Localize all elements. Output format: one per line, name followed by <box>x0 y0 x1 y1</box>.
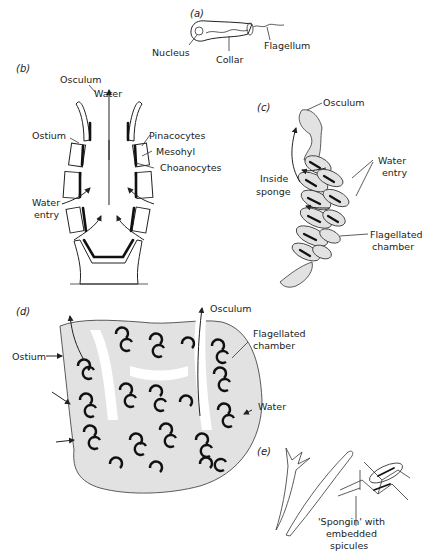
syconoid-section-drawing <box>280 103 373 287</box>
pinacocytes-label: Pinacocytes <box>149 130 205 141</box>
b-water-label: Water <box>94 88 122 99</box>
panel-b-tag: (b) <box>16 63 30 74</box>
c-osculum-label: Osculum <box>323 97 365 108</box>
panel-e-tag: (e) <box>257 446 271 457</box>
leuconoid-section-drawing <box>46 308 262 493</box>
mesohyl-label: Mesohyl <box>156 146 195 157</box>
c-water-entry-label-2: entry <box>382 167 407 178</box>
collar-label: Collar <box>216 54 243 65</box>
d-flagellated-chamber-label-1: Flagellated <box>253 328 306 339</box>
c-water-entry-label-1: Water <box>378 155 406 166</box>
b-osculum-label: Osculum <box>60 74 102 85</box>
b-water-entry-label-2: entry <box>34 209 59 220</box>
flagellum-label: Flagellum <box>264 40 310 51</box>
asconoid-section-drawing <box>62 85 154 284</box>
inside-sponge-label-1: Inside <box>260 173 288 184</box>
d-flagellated-chamber-label-2: chamber <box>253 340 295 351</box>
d-ostium-label: Ostium <box>12 351 46 362</box>
spongin-label-3: spicules <box>330 540 368 551</box>
c-flagellated-chamber-label-2: chamber <box>372 241 414 252</box>
panel-a-tag: (a) <box>190 8 204 19</box>
inside-sponge-label-2: sponge <box>256 186 291 197</box>
d-water-label: Water <box>258 401 286 412</box>
b-ostium-label: Ostium <box>32 130 66 141</box>
b-water-entry-label-1: Water <box>32 197 60 208</box>
choanocytes-label: Choanocytes <box>160 162 222 173</box>
panel-c-tag: (c) <box>257 102 270 113</box>
spongin-label-1: 'Spongin' with <box>318 516 385 527</box>
c-flagellated-chamber-label-1: Flagellated <box>370 229 423 240</box>
spongin-label-2: embedded <box>326 528 377 539</box>
d-osculum-label: Osculum <box>210 303 252 314</box>
panel-d-tag: (d) <box>16 306 30 317</box>
nucleus-label: Nucleus <box>152 47 190 58</box>
